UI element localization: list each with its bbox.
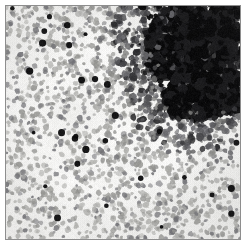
micrograph-frame [5, 5, 241, 240]
micrograph-figure: Dense scatter of small rounded nuclei on… [0, 0, 247, 246]
micrograph-image [6, 6, 240, 239]
